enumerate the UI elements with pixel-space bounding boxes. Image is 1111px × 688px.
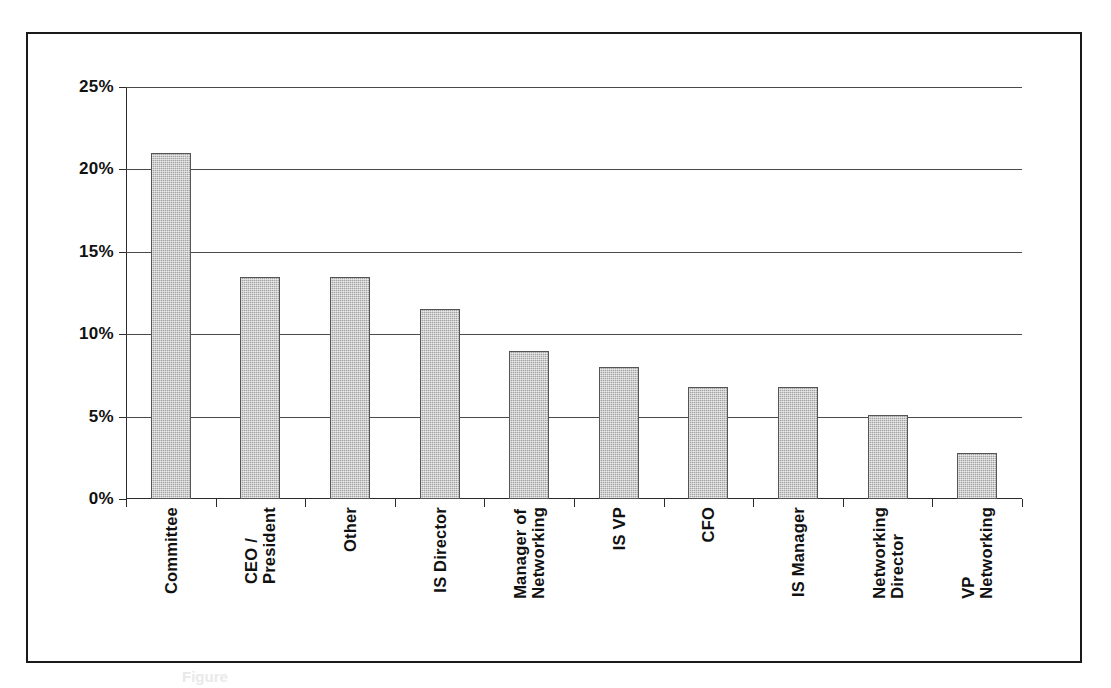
bar[interactable] (240, 277, 280, 499)
x-axis-category-label-line: VP (959, 576, 977, 598)
x-axis-category-label-line: IS VP (610, 507, 628, 550)
x-axis-category-label: IS Director (430, 507, 448, 593)
x-axis-category-label: CFO (699, 507, 717, 542)
x-axis-category-label: Committee (162, 507, 180, 594)
bar-slot (932, 87, 1022, 499)
x-axis-category-label-line: Committee (162, 507, 180, 594)
x-axis-category-label-line: Manager of (511, 509, 529, 599)
x-label-slot: IS Manager (753, 499, 843, 659)
x-label-slot: Other (305, 499, 395, 659)
x-axis-category-label-line: CEO / (242, 538, 260, 584)
x-axis-category-label-line: IS Director (430, 507, 448, 593)
x-label-slot: NetworkingDirector (843, 499, 933, 659)
x-axis-category-label: Manager ofNetworking (511, 507, 548, 599)
chart-frame: 25%20%15%10%5%0% CommitteeCEO /President… (26, 32, 1082, 663)
y-tick-mark (119, 87, 126, 88)
y-tick-mark (119, 169, 126, 170)
bar-slot (126, 87, 216, 499)
bar-slot (484, 87, 574, 499)
y-tick-mark (119, 417, 126, 418)
y-axis-tick-label: 15% (79, 242, 114, 262)
x-axis-category-label-line: President (260, 507, 278, 584)
y-axis-tick-label: 10% (79, 324, 114, 344)
y-axis-tick-label: 25% (79, 77, 114, 97)
bar-slot (305, 87, 395, 499)
y-axis-tick-label: 0% (89, 489, 114, 509)
x-axis-category-label-line: IS Manager (789, 507, 807, 597)
x-axis-category-label-line: Other (341, 507, 359, 552)
bar[interactable] (688, 387, 728, 499)
bar-slot (753, 87, 843, 499)
x-axis-category-label-line: Networking (529, 507, 547, 599)
x-axis-category-label-line: Director (888, 507, 906, 599)
bar[interactable] (509, 351, 549, 499)
x-label-slot: VPNetworking (932, 499, 1022, 659)
x-label-slot: CFO (664, 499, 754, 659)
y-axis-tick-labels: 25%20%15%10%5%0% (44, 87, 114, 499)
y-axis-tick-label: 5% (89, 407, 114, 427)
bar-slot (395, 87, 485, 499)
y-tick-mark (119, 499, 126, 500)
x-tick-mark (1022, 499, 1023, 507)
x-label-slot: Committee (126, 499, 216, 659)
x-label-slot: IS Director (395, 499, 485, 659)
y-tick-mark (119, 252, 126, 253)
x-axis-category-label: Other (341, 507, 359, 552)
x-axis-category-label: IS VP (610, 507, 628, 550)
x-axis-category-label: NetworkingDirector (869, 507, 906, 599)
bar[interactable] (151, 153, 191, 499)
x-axis-category-label: CEO /President (242, 507, 279, 584)
bar[interactable] (330, 277, 370, 499)
bar[interactable] (778, 387, 818, 499)
bar-slot (216, 87, 306, 499)
x-label-slot: CEO /President (216, 499, 306, 659)
bar[interactable] (868, 415, 908, 499)
bar[interactable] (599, 367, 639, 499)
bar[interactable] (957, 453, 997, 499)
y-tick-mark (119, 334, 126, 335)
x-axis-category-label: IS Manager (789, 507, 807, 597)
figure-root: 25%20%15%10%5%0% CommitteeCEO /President… (0, 0, 1111, 688)
bar-slot (664, 87, 754, 499)
bar-slot (843, 87, 933, 499)
x-axis-category-label-line: Networking (977, 507, 995, 599)
x-axis-category-label-line: Networking (869, 507, 887, 599)
x-axis-category-labels: CommitteeCEO /PresidentOtherIS DirectorM… (126, 499, 1022, 659)
bar[interactable] (420, 309, 460, 499)
x-label-slot: IS VP (574, 499, 664, 659)
x-label-slot: Manager ofNetworking (484, 499, 574, 659)
x-axis-category-label-line: CFO (699, 507, 717, 542)
y-axis-tick-label: 20% (79, 159, 114, 179)
figure-caption: Figure (182, 668, 228, 685)
plot-area: 25%20%15%10%5%0% (126, 87, 1022, 499)
bar-slot (574, 87, 664, 499)
bar-series (126, 87, 1022, 499)
x-axis-category-label: VPNetworking (959, 507, 996, 599)
